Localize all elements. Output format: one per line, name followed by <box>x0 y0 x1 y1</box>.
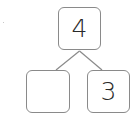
part-value-right: 3 <box>101 79 117 104</box>
connector-left <box>56 51 80 70</box>
connector-right <box>80 51 103 70</box>
part-box-right: 3 <box>87 70 130 113</box>
part-box-left[interactable] <box>26 70 70 113</box>
whole-value: 4 <box>72 16 88 41</box>
whole-box: 4 <box>58 7 101 50</box>
